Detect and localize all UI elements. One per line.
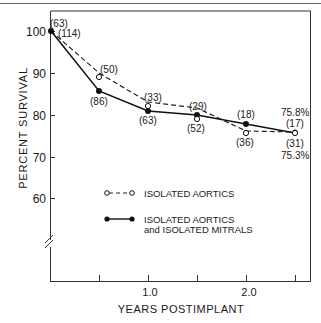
n-label: (86) xyxy=(90,96,108,107)
axis-break-icon xyxy=(45,235,53,248)
series-aortics-mitrals-markers xyxy=(48,28,298,135)
series-aortics-mitrals-line xyxy=(51,31,295,133)
n-label: (36) xyxy=(236,137,254,148)
n-label: (17) xyxy=(286,118,304,129)
x-ticks xyxy=(100,275,296,282)
plot-frame xyxy=(50,11,311,282)
n-label: (50) xyxy=(100,64,118,75)
n-label: (33) xyxy=(144,92,162,103)
x-tick-1: 1.0 xyxy=(142,286,157,298)
legend: ISOLATED AORTICS ISOLATED AORTICS and IS… xyxy=(104,188,252,235)
x-axis-title: YEARS POSTIMPLANT xyxy=(118,303,244,315)
legend-open-circle-icon xyxy=(105,191,135,196)
y-tick-80: 80 xyxy=(33,109,47,123)
series-isolated-aortics-line xyxy=(51,31,295,132)
n-label: (63) xyxy=(139,115,157,126)
n-label: (114) xyxy=(58,28,81,39)
y-tick-100: 100 xyxy=(26,25,46,39)
annotation-75-3: 75.3% xyxy=(281,150,309,161)
legend-aortics-mitrals-line2: and ISOLATED MITRALS xyxy=(144,224,253,235)
y-tick-70: 70 xyxy=(33,151,47,165)
legend-filled-circle-icon xyxy=(104,216,134,221)
n-label: (18) xyxy=(237,109,255,120)
n-label: (31) xyxy=(286,138,304,149)
n-label: (52) xyxy=(187,123,205,134)
survival-chart: 100 90 80 70 60 1.0 2.0 YEARS POSTIMPLAN… xyxy=(0,0,321,323)
annotation-75-8: 75.8% xyxy=(281,107,309,118)
x-tick-2: 2.0 xyxy=(241,286,256,298)
y-axis-title: PERCENT SURVIVAL xyxy=(17,67,29,189)
y-tick-90: 90 xyxy=(33,67,47,81)
y-tick-60: 60 xyxy=(33,192,47,206)
legend-isolated-aortics: ISOLATED AORTICS xyxy=(144,188,234,199)
n-label: (29) xyxy=(189,101,207,112)
